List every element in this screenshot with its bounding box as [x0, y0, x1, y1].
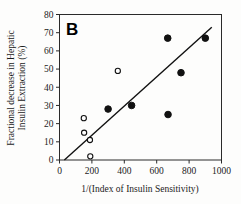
plot-frame	[60, 15, 222, 161]
y-tick-label: 0	[49, 155, 54, 165]
x-tick-label: 0	[57, 166, 62, 176]
x-tick-label: 1000	[212, 166, 231, 176]
data-point-filled	[164, 35, 171, 42]
x-tick-label: 800	[182, 166, 197, 176]
data-point-filled	[165, 111, 172, 118]
data-point-filled	[128, 102, 135, 109]
y-tick-label: 30	[44, 101, 54, 111]
y-tick-label: 60	[44, 46, 54, 56]
y-tick-label: 20	[44, 119, 54, 129]
x-tick-label: 400	[117, 166, 132, 176]
x-axis-ticks	[60, 160, 222, 164]
figure-panel-b: 01020304050607080 02004006008001000 B 1/…	[0, 0, 241, 204]
y-tick-label: 50	[44, 64, 54, 74]
data-point-filled	[202, 35, 209, 42]
scatter-plot: 01020304050607080 02004006008001000 B 1/…	[0, 0, 241, 204]
x-axis-tick-labels: 02004006008001000	[57, 166, 231, 176]
y-tick-label: 10	[44, 137, 54, 147]
y-tick-label: 70	[44, 28, 54, 38]
y-tick-label: 80	[44, 10, 54, 20]
y-axis-tick-labels: 01020304050607080	[44, 10, 54, 166]
y-axis-ticks	[56, 15, 60, 161]
panel-label: B	[66, 20, 78, 39]
data-point-open	[88, 154, 93, 159]
data-point-open	[87, 137, 92, 142]
data-point-filled	[105, 106, 112, 113]
y-tick-label: 40	[44, 83, 54, 93]
data-point-filled	[178, 69, 185, 76]
regression-line	[64, 27, 211, 160]
data-point-open	[81, 116, 86, 121]
x-tick-label: 200	[85, 166, 100, 176]
y-axis-title-line1: Fractional decrease in Hepatic	[6, 30, 16, 145]
data-point-open	[82, 130, 87, 135]
y-axis-title-line2: Insulin Extraction (%)	[17, 46, 28, 131]
data-point-open	[115, 68, 120, 73]
x-axis-title: 1/(Index of Insulin Sensitivity)	[81, 184, 198, 195]
x-tick-label: 600	[150, 166, 165, 176]
data-series-open-circles	[81, 68, 120, 159]
